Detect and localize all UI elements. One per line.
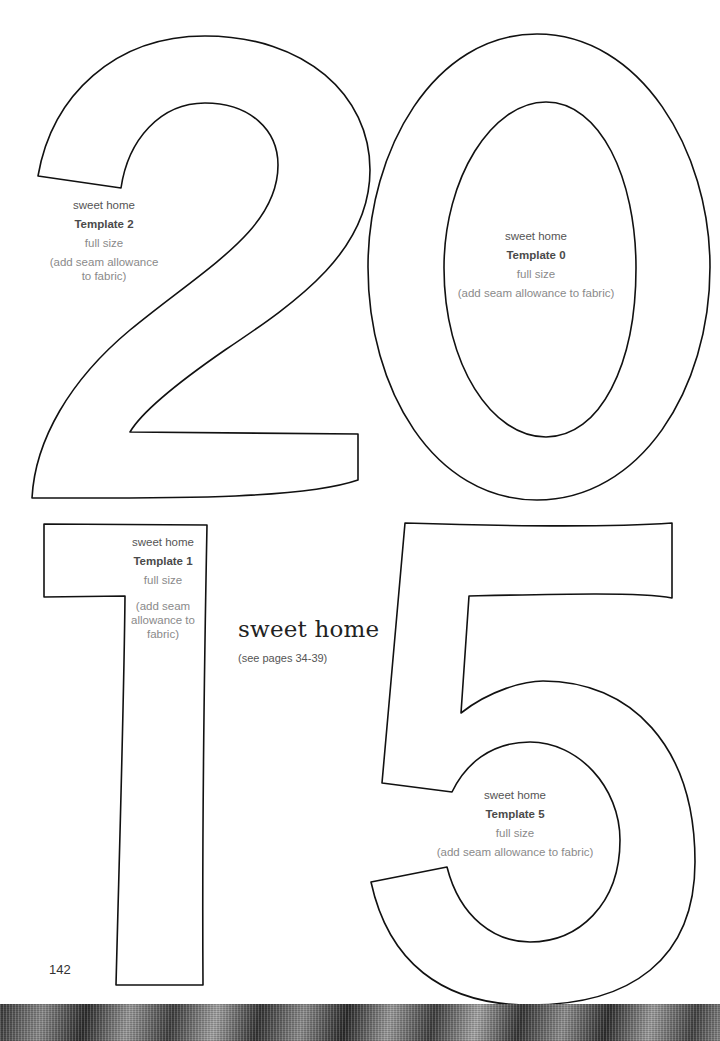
template-2-name: Template 2 [45, 217, 163, 231]
digit-5-outline [371, 523, 695, 1005]
page-reference: (see pages 34-39) [238, 652, 379, 664]
template-1-label: sweet home Template 1 full size (add sea… [124, 535, 202, 641]
template-2-project: sweet home [45, 198, 163, 212]
project-title: sweet home [238, 616, 379, 642]
template-0-note: (add seam allowance to fabric) [446, 286, 626, 300]
template-page: sweet home Template 2 full size (add sea… [0, 0, 720, 1041]
template-5-size: full size [420, 826, 610, 840]
page-number: 142 [49, 962, 71, 977]
template-5-note: (add seam allowance to fabric) [420, 845, 610, 859]
template-5-project: sweet home [420, 788, 610, 802]
digit-outlines [0, 0, 720, 1041]
template-0-size: full size [446, 267, 626, 281]
template-0-label: sweet home Template 0 full size (add sea… [446, 229, 626, 300]
template-1-size: full size [124, 573, 202, 587]
template-2-size: full size [45, 236, 163, 250]
template-1-note: (add seam allowance to fabric) [124, 599, 202, 641]
template-0-name: Template 0 [446, 248, 626, 262]
template-2-note: (add seam allowance to fabric) [45, 255, 163, 283]
template-1-name: Template 1 [124, 554, 202, 568]
template-5-label: sweet home Template 5 full size (add sea… [420, 788, 610, 859]
template-2-label: sweet home Template 2 full size (add sea… [45, 198, 163, 283]
project-title-block: sweet home (see pages 34-39) [238, 616, 379, 664]
template-0-project: sweet home [446, 229, 626, 243]
fabric-texture-strip [0, 1004, 720, 1041]
template-5-name: Template 5 [420, 807, 610, 821]
template-1-project: sweet home [124, 535, 202, 549]
